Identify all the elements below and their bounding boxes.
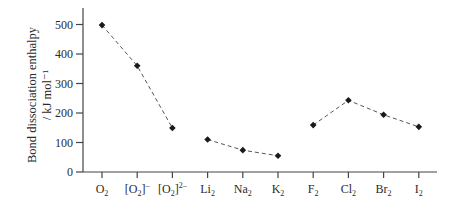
data-point-marker	[345, 97, 352, 104]
x-tick-label: Br2	[376, 182, 392, 198]
data-point-marker	[380, 111, 387, 118]
data-point-marker	[204, 136, 211, 143]
y-axis-unit: / kJ mol⁻¹	[40, 69, 54, 120]
data-point-marker	[275, 152, 282, 159]
x-tick-label: F2	[308, 182, 319, 198]
y-tick-label: 100	[55, 136, 73, 150]
x-tick-label: K2	[272, 182, 285, 198]
series-line	[102, 25, 172, 128]
series-lines	[102, 25, 419, 156]
y-axis-label: Bond dissociation enthalpy/ kJ mol⁻¹	[25, 26, 54, 163]
data-point-marker	[416, 124, 423, 131]
y-tick-label: 300	[55, 77, 73, 91]
y-tick-label: 500	[55, 18, 73, 32]
data-point-marker	[240, 147, 247, 154]
y-tick-label: 400	[55, 47, 73, 61]
bond-enthalpy-chart: Bond dissociation enthalpy/ kJ mol⁻¹ 010…	[0, 0, 458, 208]
series-line	[313, 100, 419, 127]
data-markers	[99, 22, 422, 159]
data-point-marker	[310, 122, 317, 129]
x-tick-label: Na2	[234, 182, 252, 198]
x-axis-ticks: O2[O2]–[O2]2–Li2Na2K2F2Cl2Br2I2	[96, 172, 423, 198]
y-axis-ticks: 0100200300400500	[55, 18, 83, 180]
x-tick-label: [O2]–	[125, 181, 151, 198]
x-tick-label: Li2	[200, 182, 215, 198]
y-tick-label: 200	[55, 106, 73, 120]
y-tick-label: 0	[67, 165, 73, 179]
x-tick-label: Cl2	[341, 182, 356, 198]
axes	[83, 8, 437, 172]
data-point-marker	[169, 125, 176, 132]
x-tick-label: I2	[415, 182, 423, 198]
y-axis-title: Bond dissociation enthalpy	[25, 26, 39, 163]
x-tick-label: [O2]2–	[158, 181, 188, 198]
x-tick-label: O2	[96, 182, 109, 198]
